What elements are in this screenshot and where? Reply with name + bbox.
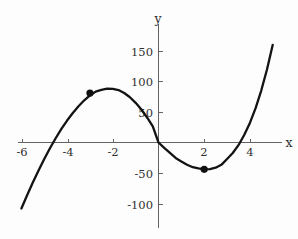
- x-axis-label: x: [285, 135, 292, 150]
- x-tick-label--6: -6: [16, 145, 27, 159]
- y-axis-label: y: [153, 11, 162, 26]
- y-tick-label--100: -100: [127, 198, 153, 212]
- y-tick-label-100: 100: [131, 75, 153, 89]
- chart-figure: -6 -4 -2 2 4 150 100 50 -50 -100 y x: [0, 0, 298, 239]
- local-maximum-point: [86, 89, 93, 96]
- cubic-function-plot: -6 -4 -2 2 4 150 100 50 -50 -100 y x: [0, 0, 298, 239]
- x-tick-label-4: 4: [246, 145, 253, 159]
- y-tick-label-150: 150: [131, 45, 153, 59]
- local-minimum-point: [201, 166, 208, 173]
- x-tick-label--4: -4: [62, 145, 73, 159]
- x-tick-label-2: 2: [200, 145, 207, 159]
- x-tick-label--2: -2: [107, 145, 118, 159]
- y-tick-label--50: -50: [134, 167, 153, 181]
